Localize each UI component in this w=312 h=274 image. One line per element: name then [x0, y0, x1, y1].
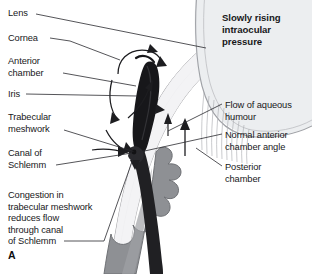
label-flow-of-aqueous-humour: Flow of aqueous humour: [225, 100, 292, 123]
label-congestion-note: Congestion in trabecular meshwork reduce…: [8, 190, 92, 248]
flow-arrowhead-pupil-top: [147, 44, 158, 53]
glaucoma-diagram-figure: Lens Cornea Anterior chamber Iris Trabec…: [0, 0, 312, 274]
label-iris: Iris: [8, 89, 20, 101]
leader-anterior-chamber: [63, 73, 136, 86]
leader-trabecular: [64, 130, 132, 151]
figure-title: Slowly rising intraocular pressure: [222, 12, 281, 47]
label-canal-of-schlemm: Canal of Schlemm: [8, 148, 46, 171]
label-posterior-chamber: Posterior chamber: [225, 162, 261, 185]
panel-letter-a: A: [8, 249, 16, 261]
label-lens: Lens: [8, 8, 28, 20]
iris-pupil-margin: [136, 56, 154, 62]
leader-posterior-chamber: [196, 148, 222, 166]
flow-arrowhead-anterior-left: [110, 112, 120, 124]
label-trabecular-meshwork: Trabecular meshwork: [8, 112, 51, 135]
flow-arrowhead-pupil-right: [156, 56, 167, 67]
label-anterior-chamber: Anterior chamber: [8, 56, 43, 79]
label-cornea: Cornea: [8, 33, 38, 45]
leader-cornea: [50, 38, 120, 60]
leader-lens: [36, 14, 206, 48]
leader-canal: [56, 153, 132, 165]
leader-iris: [26, 94, 137, 96]
label-normal-anterior-chamber-angle: Normal anterior chamber angle: [225, 130, 288, 153]
